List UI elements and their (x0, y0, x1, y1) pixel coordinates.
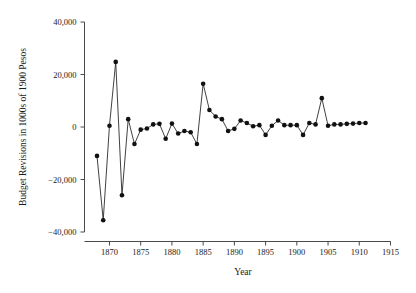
y-axis-ticks: −40,000−20,000020,00040,000 (48, 17, 84, 237)
x-axis-ticks: 1870187518801885189018951900190519101915 (101, 242, 399, 258)
data-point (195, 142, 200, 147)
x-tick-label: 1870 (101, 247, 118, 257)
data-point (182, 129, 187, 134)
data-point (126, 117, 131, 122)
data-point (320, 96, 325, 101)
data-point (145, 126, 150, 131)
budget-revisions-series-line (97, 62, 366, 220)
x-tick-label: 1905 (320, 247, 337, 257)
data-point (226, 129, 231, 134)
x-tick-label: 1885 (195, 247, 212, 257)
data-point (313, 122, 318, 127)
x-tick-label: 1915 (382, 247, 399, 257)
data-point (351, 121, 356, 126)
x-tick-label: 1875 (132, 247, 149, 257)
data-point (151, 122, 156, 127)
data-point (213, 114, 218, 119)
data-point (338, 122, 343, 127)
data-point (288, 123, 293, 128)
data-point (251, 124, 256, 129)
data-point (282, 123, 287, 128)
data-point (176, 131, 181, 136)
data-point (232, 127, 237, 132)
y-axis-title: Budget Revisions in 1000s of 1900 Pesos (18, 48, 28, 206)
data-point (238, 118, 243, 123)
data-point (245, 121, 250, 126)
y-tick-label: 40,000 (53, 17, 76, 27)
data-point (332, 122, 337, 127)
data-point (132, 142, 137, 147)
data-point (188, 130, 193, 135)
x-tick-label: 1890 (226, 247, 243, 257)
x-tick-label: 1895 (257, 247, 274, 257)
data-point (263, 133, 268, 138)
data-point (270, 123, 275, 128)
data-point (301, 133, 306, 138)
data-point (120, 193, 125, 198)
data-point (276, 118, 281, 123)
data-point (201, 81, 206, 86)
data-point (307, 121, 312, 126)
x-tick-label: 1880 (163, 247, 180, 257)
chart-figure: Budget Revisions in 1000s of 1900 Pesos … (0, 0, 416, 293)
budget-revisions-line-chart: Budget Revisions in 1000s of 1900 Pesos … (0, 0, 416, 293)
data-point (295, 123, 300, 128)
x-axis-title: Year (234, 267, 252, 277)
data-point (220, 117, 225, 122)
y-tick-label: 20,000 (53, 70, 76, 80)
data-point (101, 218, 106, 223)
data-point (157, 122, 162, 127)
data-point (357, 121, 362, 126)
y-tick-label: 0 (72, 122, 76, 132)
data-point (138, 127, 143, 132)
data-point (163, 137, 168, 142)
data-point (95, 154, 100, 159)
y-tick-label: −40,000 (48, 227, 76, 237)
y-tick-label: −20,000 (48, 175, 76, 185)
data-point (207, 108, 212, 113)
x-tick-label: 1910 (351, 247, 368, 257)
data-point (170, 121, 175, 126)
data-point (113, 60, 118, 65)
data-point (326, 123, 331, 128)
x-tick-label: 1900 (288, 247, 305, 257)
data-point (107, 123, 112, 128)
data-point (344, 122, 349, 127)
data-point (257, 123, 262, 128)
data-point (363, 121, 368, 126)
